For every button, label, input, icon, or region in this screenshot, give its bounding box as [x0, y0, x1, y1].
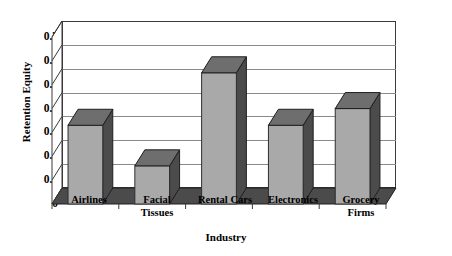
y-tick-label: 0.7 [22, 31, 58, 43]
y-tick-label: 0.2 [22, 150, 58, 162]
bar-front-face [68, 125, 103, 204]
x-axis-tick-labels: AirlinesFacialTissuesRental CarsElectron… [55, 194, 395, 234]
bar-chart: Retention Equity 00.10.20.30.40.50.60.7 … [0, 0, 452, 256]
x-tick-label-line: Firms [327, 207, 395, 220]
x-tick-label-line: Electronics [259, 194, 327, 207]
x-tick-label-line: Airlines [55, 194, 123, 207]
bar-airlines [62, 21, 396, 204]
x-tick-label: Electronics [259, 194, 327, 234]
x-tick-label: FacialTissues [123, 194, 191, 234]
y-tick-label: 0.4 [22, 103, 58, 115]
x-tick-label: GroceryFirms [327, 194, 395, 234]
y-tick-label: 0.5 [22, 79, 58, 91]
x-tick-label-line: Rental Cars [191, 194, 259, 207]
x-tick-label: Airlines [55, 194, 123, 234]
y-tick-label: 0.6 [22, 55, 58, 67]
x-tick-label-line: Tissues [123, 207, 191, 220]
x-tick-label-line: Grocery [327, 194, 395, 207]
x-tick-label-line: Facial [123, 194, 191, 207]
y-tick-label: 0.1 [22, 174, 58, 186]
x-axis-title: Industry [0, 231, 452, 243]
y-tick-label: 0 [22, 198, 58, 210]
x-tick-label: Rental Cars [191, 194, 259, 234]
y-axis-tick-labels: 00.10.20.30.40.50.60.7 [22, 0, 58, 256]
y-tick-label: 0.3 [22, 126, 58, 138]
plot-area [62, 21, 396, 188]
